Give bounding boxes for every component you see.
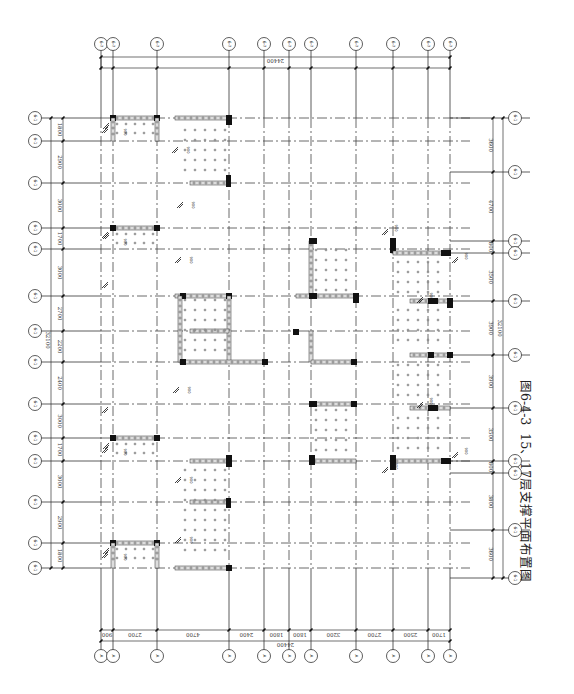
axis-bubble-label: A	[287, 655, 292, 658]
dimension-tick	[62, 182, 65, 185]
support-post	[179, 335, 181, 337]
axis-bubble-label: A	[448, 655, 453, 658]
support-post	[335, 419, 337, 421]
dimension-tick	[228, 629, 231, 632]
axis-bubble-label: 6-?	[155, 41, 160, 47]
left-segment-dimension: 2400	[57, 376, 63, 390]
support-post	[325, 259, 327, 261]
shear-wall	[447, 298, 453, 308]
support-post	[214, 309, 216, 311]
shear-wall	[226, 565, 232, 571]
support-post	[224, 339, 226, 341]
support-post	[397, 374, 399, 376]
support-post	[402, 252, 404, 254]
support-post	[214, 149, 216, 151]
right-axis-bubble: 6-1	[509, 247, 522, 260]
spacing-label: 900	[464, 253, 468, 261]
shear-wall	[447, 352, 453, 358]
support-post	[315, 269, 317, 271]
axis-bubble-label: 6-1	[33, 401, 38, 408]
support-post	[194, 549, 196, 551]
right-axis-bubble: 6-1	[509, 235, 522, 248]
bottom-axis-bubble: A	[350, 650, 363, 663]
support-post	[211, 501, 213, 503]
axis-bubble-label: 6-1	[33, 293, 38, 300]
support-post	[310, 256, 312, 258]
left-segment-dimension: 1800	[57, 549, 63, 563]
support-post	[112, 552, 114, 554]
left-axis-bubble: 6-1	[29, 398, 42, 411]
brace-symbol	[382, 467, 388, 473]
dimension-tick	[502, 577, 505, 580]
top-axis-bubble: 6-?	[223, 38, 236, 51]
dimension-tick	[112, 629, 115, 632]
axis-bubble-label: 6-1	[513, 115, 518, 122]
support-post	[224, 349, 226, 351]
dimension-tick	[62, 567, 65, 570]
support-post	[417, 309, 419, 311]
support-post	[156, 121, 158, 123]
support-post	[438, 460, 440, 462]
shear-wall	[351, 359, 357, 365]
support-post	[255, 361, 257, 363]
support-post	[228, 317, 230, 319]
support-post	[112, 127, 114, 129]
axis-bubble-label: 6-1	[33, 138, 38, 145]
support-post	[207, 361, 209, 363]
support-post	[228, 335, 230, 337]
right-segment-dimension: 4700	[488, 200, 494, 214]
support-post	[396, 252, 398, 254]
support-post	[344, 361, 346, 363]
support-post	[224, 539, 226, 541]
support-post	[427, 319, 429, 321]
support-post	[228, 353, 230, 355]
support-post	[427, 417, 429, 419]
support-post	[427, 281, 429, 283]
support-post	[407, 437, 409, 439]
support-post	[224, 499, 226, 501]
support-post	[214, 349, 216, 351]
support-post	[347, 295, 349, 297]
shear-wall	[293, 329, 299, 335]
right-segment-dimension: 3900	[488, 321, 494, 335]
support-post	[204, 349, 206, 351]
support-post	[397, 447, 399, 449]
axis-bubble-label: 6-?	[426, 41, 431, 47]
support-post	[335, 259, 337, 261]
support-post	[214, 117, 216, 119]
support-post	[214, 339, 216, 341]
support-post	[407, 447, 409, 449]
support-post	[335, 289, 337, 291]
support-post	[134, 117, 136, 119]
support-post	[146, 542, 148, 544]
top-total-dimension: 24400	[266, 58, 284, 64]
right-axis-bubble: 6-1	[509, 166, 522, 179]
support-post	[332, 361, 334, 363]
support-post	[345, 289, 347, 291]
support-post	[152, 117, 154, 119]
left-axis-bubble: 6-1	[29, 496, 42, 509]
support-post	[194, 319, 196, 321]
support-post	[335, 439, 337, 441]
support-post	[344, 460, 346, 462]
axis-bubble-label: 6-?	[262, 41, 267, 47]
right-segment-dimension: 3500	[488, 428, 494, 442]
support-post	[344, 403, 346, 405]
support-post	[204, 309, 206, 311]
support-post	[427, 261, 429, 263]
support-post	[194, 499, 196, 501]
left-axis-bubble: 6-1	[29, 112, 42, 125]
support-post	[437, 309, 439, 311]
support-post	[224, 149, 226, 151]
support-post	[143, 132, 145, 134]
brace-symbol	[175, 257, 181, 263]
support-post	[194, 149, 196, 151]
spacing-label: 900	[191, 202, 195, 210]
support-post	[427, 394, 429, 396]
axis-bubble-label: 6-1	[33, 499, 38, 506]
shear-wall	[309, 293, 317, 299]
right-axis-bubble: 6-1	[509, 112, 522, 125]
support-post	[184, 469, 186, 471]
support-post	[194, 159, 196, 161]
support-post	[335, 269, 337, 271]
